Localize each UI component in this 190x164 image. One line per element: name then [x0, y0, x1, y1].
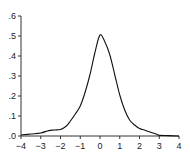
y-tick-label: .5: [8, 31, 16, 41]
plot-area: [21, 35, 179, 136]
x-tick-label: −4: [16, 141, 26, 151]
x-tick-label: −3: [36, 141, 46, 151]
y-tick-label: .2: [8, 91, 16, 101]
x-tick-label: 4: [176, 141, 181, 151]
density-curve: [21, 35, 179, 136]
y-tick-label: .0: [8, 131, 16, 141]
x-tick-label: 1: [117, 141, 122, 151]
x-tick-label: 3: [157, 141, 162, 151]
y-tick-label: .6: [8, 11, 16, 21]
y-tick-label: .4: [8, 51, 16, 61]
x-tick-label: −2: [55, 141, 65, 151]
y-tick-label: .3: [8, 71, 16, 81]
x-axis: −4−3−2−101234: [16, 136, 182, 151]
x-tick-label: 0: [97, 141, 102, 151]
x-tick-label: 2: [137, 141, 142, 151]
density-chart: .0.1.2.3.4.5.6 −4−3−2−101234: [0, 0, 190, 164]
x-tick-label: −1: [75, 141, 85, 151]
y-tick-label: .1: [8, 111, 16, 121]
y-axis: .0.1.2.3.4.5.6: [8, 11, 21, 141]
